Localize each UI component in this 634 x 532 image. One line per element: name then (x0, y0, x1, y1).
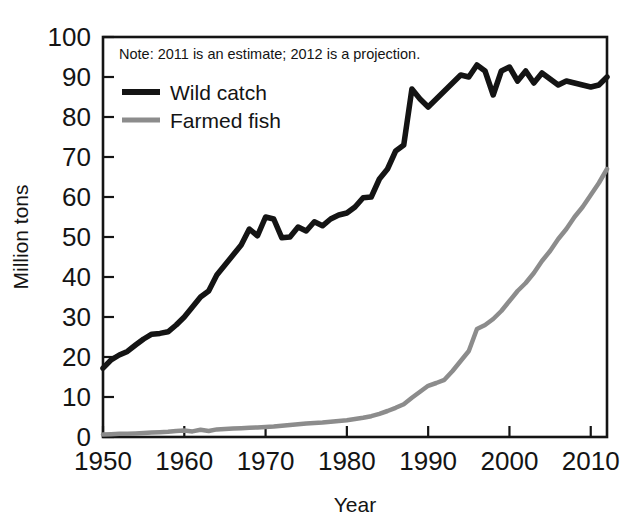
chart-figure: 0102030405060708090100 19501960197019801… (0, 0, 634, 532)
x-axis-title: Year (334, 493, 376, 516)
y-tick-label-90: 90 (62, 62, 91, 92)
y-tick-label-80: 80 (62, 102, 91, 132)
x-tick-label-1960: 1960 (155, 446, 213, 476)
y-tick-label-100: 100 (48, 22, 91, 52)
x-axis-tick-labels: 1950196019701980199020002010 (74, 446, 620, 476)
y-tick-label-60: 60 (62, 182, 91, 212)
y-tick-label-10: 10 (62, 382, 91, 412)
x-tick-label-1980: 1980 (318, 446, 376, 476)
y-tick-label-70: 70 (62, 142, 91, 172)
x-tick-label-1970: 1970 (237, 446, 295, 476)
x-tick-label-2000: 2000 (481, 446, 539, 476)
x-tick-label-2010: 2010 (562, 446, 620, 476)
legend-label-farmed-fish: Farmed fish (170, 109, 281, 132)
note-annotation: Note: 2011 is an estimate; 2012 is a pro… (119, 46, 420, 62)
legend-label-wild-catch: Wild catch (170, 81, 267, 104)
chart-legend: Wild catch Farmed fish (122, 81, 281, 132)
y-tick-label-40: 40 (62, 262, 91, 292)
y-axis-title: Million tons (9, 184, 32, 289)
y-axis-ticks (103, 37, 114, 437)
y-axis-tick-labels: 0102030405060708090100 (48, 22, 91, 452)
x-tick-label-1950: 1950 (74, 446, 132, 476)
y-tick-label-30: 30 (62, 302, 91, 332)
y-tick-label-50: 50 (62, 222, 91, 252)
y-tick-label-20: 20 (62, 342, 91, 372)
fisheries-line-chart: 0102030405060708090100 19501960197019801… (0, 0, 634, 532)
x-tick-label-1990: 1990 (399, 446, 457, 476)
